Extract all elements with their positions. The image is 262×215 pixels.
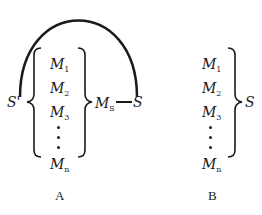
- b-ellipsis-dot: [209, 126, 212, 129]
- s-prime-label: S': [7, 94, 20, 110]
- a-item-mn: Mn: [50, 157, 70, 177]
- a-ellipsis-dot: [57, 146, 60, 149]
- b-item-m2: M2: [202, 81, 221, 101]
- a-ellipsis-dot: [57, 136, 60, 139]
- left-brace-a: [27, 48, 41, 157]
- b-item-m3: M3: [202, 105, 221, 125]
- caption-b: B: [208, 188, 217, 204]
- a-item-m3: M3: [50, 105, 69, 125]
- connecting-arc: [20, 21, 137, 98]
- b-item-m1: M1: [202, 57, 221, 77]
- s-label-b: S: [245, 94, 255, 110]
- right-brace-b: [228, 48, 242, 157]
- a-ellipsis-dot: [57, 126, 60, 129]
- b-item-mn: Mn: [202, 157, 222, 177]
- a-item-m2: M2: [50, 81, 69, 101]
- a-item-m1: M1: [50, 57, 69, 77]
- caption-a: A: [55, 188, 64, 204]
- b-ellipsis-dot: [209, 146, 212, 149]
- diagram-lines: [0, 0, 262, 215]
- right-brace-a: [78, 48, 92, 157]
- ms-label: MS: [95, 96, 115, 116]
- s-label-a: S: [133, 94, 143, 110]
- b-ellipsis-dot: [209, 136, 212, 139]
